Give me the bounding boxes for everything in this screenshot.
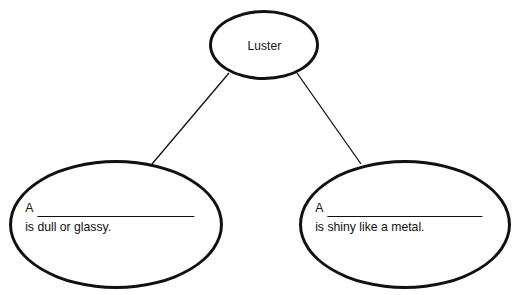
branch-shiny-fill-row: A — [315, 199, 482, 217]
branch-dull-blank-input[interactable] — [37, 202, 194, 217]
node-branch-dull[interactable]: A is dull or glassy. — [9, 160, 223, 289]
branch-shiny-text: A is shiny like a metal. — [302, 199, 496, 236]
connector-root-to-dull — [152, 73, 229, 164]
root-label: Luster — [247, 39, 281, 52]
connector-root-to-shiny — [297, 73, 361, 164]
branch-shiny-article: A — [315, 199, 327, 217]
node-branch-shiny[interactable]: A is shiny like a metal. — [299, 160, 511, 289]
concept-map-diagram: Luster A is dull or glassy. A is shiny l… — [0, 0, 519, 295]
branch-shiny-predicate: is shiny like a metal. — [315, 218, 482, 236]
branch-dull-predicate: is dull or glassy. — [25, 218, 194, 236]
branch-dull-text: A is dull or glassy. — [12, 199, 208, 236]
node-root-luster[interactable]: Luster — [209, 10, 319, 80]
branch-shiny-blank-input[interactable] — [327, 202, 482, 217]
branch-dull-article: A — [25, 199, 37, 217]
branch-dull-fill-row: A — [25, 199, 194, 217]
